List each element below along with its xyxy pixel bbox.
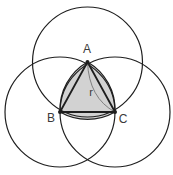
radius-label: r xyxy=(89,86,93,98)
point-c-dot xyxy=(113,110,117,114)
reuleaux-diagram: A B C r xyxy=(0,0,173,175)
point-a-dot xyxy=(86,60,90,64)
label-b: B xyxy=(47,111,55,125)
reuleaux-region xyxy=(60,62,115,119)
label-c: C xyxy=(119,112,128,126)
label-a: A xyxy=(83,42,91,56)
point-b-dot xyxy=(58,110,62,114)
diagram-canvas: A B C r xyxy=(0,0,173,175)
